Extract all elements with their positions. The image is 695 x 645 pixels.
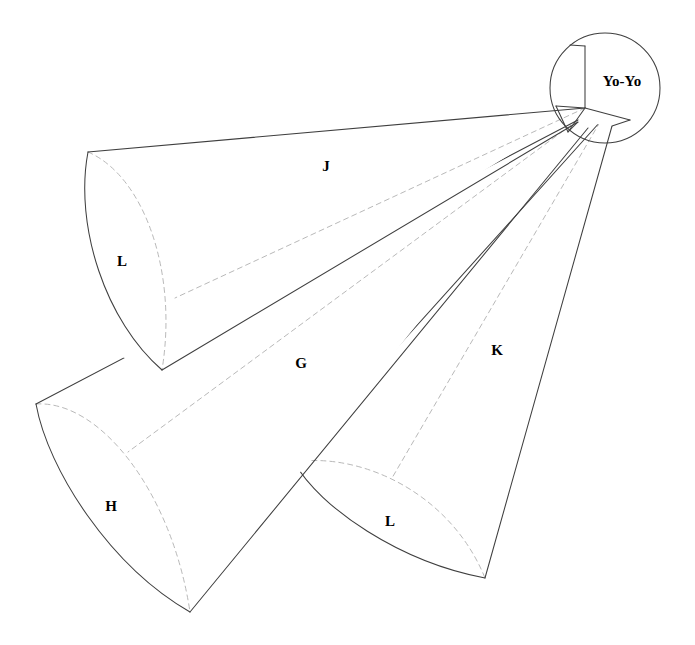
label-j: J: [322, 158, 330, 174]
label-g: G: [295, 355, 307, 371]
label-k: K: [491, 342, 503, 358]
label-h: H: [105, 498, 117, 514]
apex-top-facet-fill: [556, 45, 585, 108]
label-l-right: L: [385, 513, 395, 529]
yoyo-cone-diagram: K L G H: [0, 0, 695, 645]
label-l-upper: L: [117, 253, 127, 269]
apex-lower-facet-fill: [578, 108, 630, 126]
diagram-canvas: K L G H: [0, 0, 695, 645]
yoyo-title-label: Yo-Yo: [603, 73, 641, 89]
